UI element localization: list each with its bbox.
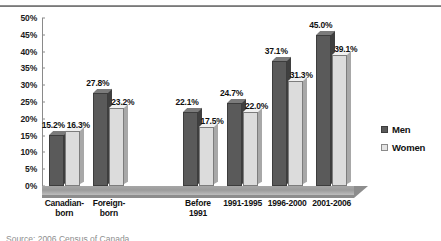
bar-women-foreign-born[interactable] [109, 108, 124, 186]
bar-side-face [124, 104, 128, 184]
y-axis-tick-mark [42, 102, 45, 103]
y-axis-tick-label: 0% [25, 181, 37, 191]
bar-front-face [65, 131, 80, 186]
x-axis-category-line: Foreign- [87, 198, 132, 208]
bar-men-foreign-born[interactable] [93, 93, 108, 186]
bar-front-face [243, 112, 258, 186]
bar-front-face [49, 135, 64, 186]
bar-front-face [93, 93, 108, 186]
bar-front-face [199, 127, 214, 186]
y-axis-tick-mark [42, 169, 45, 170]
y-axis-tick-mark [42, 152, 45, 153]
bar-front-face [183, 112, 198, 186]
x-axis-category-label: 1996-2000 [265, 198, 310, 208]
bar-top-face [183, 108, 202, 112]
bar-value-label: 45.0% [309, 20, 332, 30]
legend-label: Women [392, 142, 425, 153]
bar-front-face [316, 35, 331, 186]
bar-value-label: 39.1% [334, 44, 357, 54]
bar-men-2001-2006[interactable] [316, 35, 331, 186]
y-axis-tick-mark [42, 18, 45, 19]
y-axis-tick-mark [42, 34, 45, 35]
chart-legend: MenWomen [381, 124, 425, 160]
bar-front-face [227, 103, 242, 186]
bar-men-1996-2000[interactable] [272, 61, 287, 186]
bar-side-face [214, 123, 218, 184]
y-axis-tick-label: 25% [21, 97, 37, 107]
bar-women-1991-1995[interactable] [243, 112, 258, 186]
x-axis-category-line: Before [176, 198, 221, 208]
bar-value-label: 22.0% [245, 101, 268, 111]
bar-value-label: 23.2% [111, 97, 134, 107]
bar-value-label: 37.1% [265, 46, 288, 56]
legend-label: Men [392, 124, 410, 135]
y-axis-tick-label: 30% [21, 80, 37, 90]
x-axis-category-label: Foreign-born [87, 198, 132, 218]
bar-front-face [109, 108, 124, 186]
chart-page: 0%5%10%15%20%25%30%35%40%45%50%15.2%16.3… [0, 0, 441, 241]
plot-area: 0%5%10%15%20%25%30%35%40%45%50%15.2%16.3… [42, 18, 354, 186]
x-axis-category-label: Canadian-born [42, 198, 87, 218]
chart-floor-slab [42, 186, 354, 195]
bar-women-before-1991[interactable] [199, 127, 214, 186]
top-divider-rule [0, 5, 441, 7]
y-axis-tick-mark [42, 51, 45, 52]
x-axis-category-label: 2001-2006 [309, 198, 354, 208]
legend-item-men[interactable]: Men [381, 124, 425, 135]
bar-value-label: 24.7% [220, 88, 243, 98]
y-axis-tick-label: 10% [21, 147, 37, 157]
bar-side-face [258, 108, 262, 184]
bar-side-face [80, 127, 84, 184]
y-axis-tick-label: 50% [21, 13, 37, 23]
legend-item-women[interactable]: Women [381, 142, 425, 153]
bar-value-label: 22.1% [176, 97, 199, 107]
bar-value-label: 31.3% [290, 70, 313, 80]
y-axis-tick-label: 45% [21, 30, 37, 40]
y-axis-tick-label: 5% [25, 164, 37, 174]
bar-value-label: 16.3% [67, 120, 90, 130]
legend-swatch-men [381, 126, 388, 133]
legend-swatch-women [381, 144, 388, 151]
chart-floor-perspective-wedge [354, 186, 368, 198]
bar-front-face [332, 55, 347, 186]
x-axis-category-line: 1991-1995 [220, 198, 265, 208]
x-axis-category-line: Canadian- [42, 198, 87, 208]
source-caption: Source: 2006 Census of Canada [6, 234, 436, 241]
y-axis-tick-label: 20% [21, 114, 37, 124]
x-axis-category-label: 1991-1995 [220, 198, 265, 208]
y-axis-tick-label: 35% [21, 63, 37, 73]
bar-front-face [272, 61, 287, 186]
bar-men-before-1991[interactable] [183, 112, 198, 186]
bar-women-1996-2000[interactable] [288, 81, 303, 186]
bar-side-face [303, 77, 307, 184]
y-axis-tick-label: 15% [21, 131, 37, 141]
x-axis-category-line: born [87, 208, 132, 218]
bar-men-1991-1995[interactable] [227, 103, 242, 186]
bar-women-2001-2006[interactable] [332, 55, 347, 186]
bar-front-face [288, 81, 303, 186]
y-axis-tick-label: 40% [21, 47, 37, 57]
bar-side-face [347, 50, 351, 184]
x-axis-category-line: 1996-2000 [265, 198, 310, 208]
x-axis-category-line: 1991 [176, 208, 221, 218]
x-axis-category-line: born [42, 208, 87, 218]
y-axis-tick-mark [42, 68, 45, 69]
bar-men-canadian-born[interactable] [49, 135, 64, 186]
x-axis-category-line: 2001-2006 [309, 198, 354, 208]
bar-value-label: 17.5% [201, 116, 224, 126]
bar-value-label: 27.8% [86, 78, 109, 88]
y-axis-tick-mark [42, 85, 45, 86]
bar-value-label: 15.2% [42, 120, 65, 130]
y-axis-tick-mark [42, 135, 45, 136]
x-axis-category-label: Before1991 [176, 198, 221, 218]
bar-women-canadian-born[interactable] [65, 131, 80, 186]
